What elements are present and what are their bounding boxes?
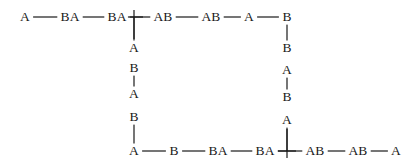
graph-node-b2: B (168, 144, 180, 158)
graph-node-r4: A (281, 113, 294, 127)
graph-node-t3: BA (106, 10, 128, 24)
graph-node-t4: AB (152, 10, 174, 24)
junction-group (125, 10, 296, 158)
graph-node-l1: A (128, 41, 141, 55)
graph-node-r1: B (281, 41, 293, 55)
graph-node-b4: BA (254, 144, 276, 158)
diagram-edges-layer (0, 0, 412, 165)
graph-node-l3: A (128, 87, 141, 101)
graph-node-b7: A (390, 144, 403, 158)
graph-node-l4: B (128, 110, 140, 124)
graph-node-b3: BA (207, 144, 229, 158)
graph-node-b6: AB (347, 144, 369, 158)
edge-group (33, 17, 388, 151)
graph-node-r3: B (281, 90, 293, 104)
graph-node-t5: AB (200, 10, 222, 24)
graph-node-t1: A (19, 10, 32, 24)
diagram-canvas: ABABAABABABABABBABAABBABAABABA (0, 0, 412, 165)
graph-node-l2: B (128, 61, 140, 75)
graph-node-b5: AB (304, 144, 326, 158)
graph-node-t2: BA (59, 10, 81, 24)
graph-node-t7: B (281, 10, 293, 24)
graph-node-t6: A (243, 10, 256, 24)
graph-node-b1: A (128, 144, 141, 158)
graph-node-r2: A (281, 63, 294, 77)
